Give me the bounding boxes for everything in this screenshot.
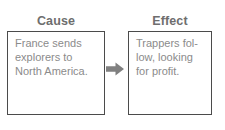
effect-heading: Effect — [128, 14, 212, 28]
cause-box-text: France sends explorers to North America. — [15, 36, 100, 79]
cause-effect-diagram: Cause France sends explorers to North Am… — [0, 0, 225, 130]
cause-box: France sends explorers to North America. — [7, 31, 105, 115]
arrow-right-icon — [106, 61, 124, 77]
effect-box: Trappers fol- low, looking for profit. — [128, 31, 212, 115]
effect-box-text: Trappers fol- low, looking for profit. — [136, 36, 207, 79]
cause-heading: Cause — [7, 14, 105, 28]
